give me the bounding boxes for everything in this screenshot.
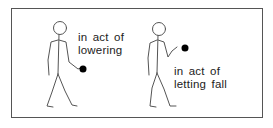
stick-figure-letting-fall <box>148 23 177 108</box>
label-line: lowering <box>78 44 124 57</box>
label-line: letting fall <box>174 78 227 91</box>
head-icon <box>153 23 166 36</box>
stick-figure-lowering <box>47 22 81 108</box>
label-letting-fall: in act of letting fall <box>174 65 227 91</box>
diagram-canvas <box>0 0 273 128</box>
head-icon <box>54 22 67 35</box>
label-lowering: in act of lowering <box>78 31 124 57</box>
label-line: in act of <box>174 65 227 78</box>
ball-icon <box>80 66 87 73</box>
label-line: in act of <box>78 31 124 44</box>
ball-icon <box>182 45 189 52</box>
